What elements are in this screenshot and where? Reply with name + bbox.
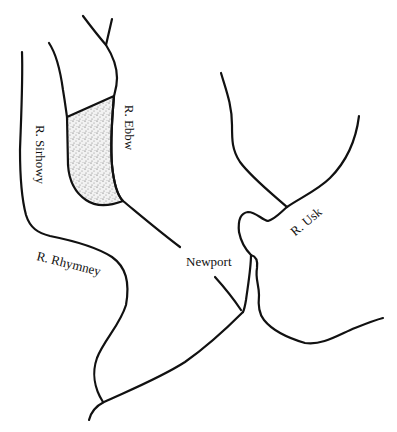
map: R. Ebbw R. Sirhowy R. Rhymney Newport R.… [0, 0, 397, 432]
coastline [89, 312, 243, 420]
river-usk-right-bank [251, 255, 383, 343]
label-newport: Newport [186, 255, 232, 268]
river-sirhowy [49, 43, 67, 117]
river-ebbw-branch [106, 19, 112, 45]
shaded-area [67, 96, 123, 205]
label-sirhowy: R. Sirhowy [34, 125, 47, 184]
map-drawing [0, 0, 397, 432]
river-newport-tributary [215, 277, 241, 310]
label-ebbw: R. Ebbw [123, 105, 136, 151]
river-usk-left-tributary [221, 73, 287, 207]
